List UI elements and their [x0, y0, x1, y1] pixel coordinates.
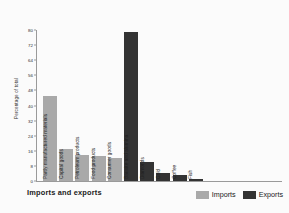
y-axis-tick-mark — [34, 75, 36, 76]
bar-chart: Percentage of total 08162432404856647280… — [0, 0, 289, 213]
bar-category-label: Food products — [91, 148, 96, 179]
legend-swatch-icon — [243, 191, 256, 199]
x-axis-line — [36, 181, 282, 182]
y-axis-tick-mark — [34, 60, 36, 61]
y-axis-tick-mark — [34, 30, 36, 31]
y-axis-tick-mark — [34, 105, 36, 106]
legend-item[interactable]: Exports — [243, 190, 283, 199]
bar-category-label: Gold — [156, 169, 161, 179]
legend-label: Imports — [212, 190, 236, 199]
y-axis-tick-mark — [34, 120, 36, 121]
bar-category-label: Consumer goods — [107, 142, 112, 179]
y-axis-tick-mark — [34, 45, 36, 46]
y-axis-tick-mark — [34, 135, 36, 136]
y-axis-tick-mark — [34, 165, 36, 166]
bar-category-label: Coffee — [172, 165, 177, 179]
bar-category-label: Fish — [188, 170, 193, 179]
y-axis-title: Percentage of total — [14, 56, 19, 142]
plot-area: 08162432404856647280 Partly manufactured… — [36, 30, 282, 182]
y-axis-tick-mark — [34, 181, 36, 182]
chart-legend: ImportsExports — [196, 190, 283, 199]
bar-category-label: Petroleum products — [75, 137, 80, 179]
y-axis-tick-mark — [34, 90, 36, 91]
legend-item[interactable]: Imports — [196, 190, 236, 199]
y-axis-tick-mark — [34, 150, 36, 151]
bar-category-label: Bauxite and alumina — [124, 135, 129, 179]
bar-category-label: Partly manufactured materials — [43, 114, 48, 179]
legend-label: Exports — [259, 190, 283, 199]
legend-swatch-icon — [196, 191, 209, 199]
bar-category-label: Diamonds — [140, 157, 145, 179]
bar-series-layer: Partly manufactured materialsCapital goo… — [37, 30, 282, 181]
bar-category-label: Capital goods — [59, 149, 64, 179]
bar-exports — [189, 179, 203, 181]
x-axis-title: Imports and exports — [27, 188, 102, 197]
